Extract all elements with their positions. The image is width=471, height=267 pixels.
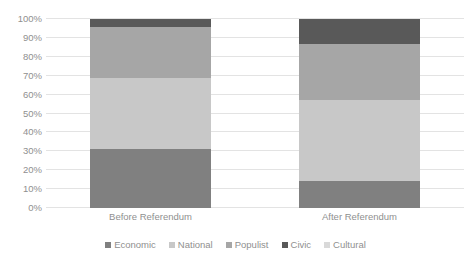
y-tick-label: 40%	[23, 128, 42, 138]
bar-stack[interactable]	[299, 19, 420, 208]
chart-container: 0%10%20%30%40%50%60%70%80%90%100% Before…	[0, 0, 471, 267]
x-tick-label: Before Referendum	[109, 212, 192, 222]
y-tick-label: 100%	[18, 14, 42, 24]
legend-label: National	[178, 240, 213, 250]
x-tick-label: After Referendum	[322, 212, 397, 222]
bar-segment-national[interactable]	[90, 78, 211, 150]
legend-swatch-icon	[226, 242, 232, 248]
y-tick-label: 10%	[23, 184, 42, 194]
legend-item-populist[interactable]: Populist	[226, 240, 269, 250]
legend-swatch-icon	[282, 242, 288, 248]
legend-label: Cultural	[333, 240, 366, 250]
bar-segment-economic[interactable]	[299, 181, 420, 208]
bar-segment-populist[interactable]	[90, 27, 211, 78]
y-tick-label: 70%	[23, 71, 42, 81]
legend-swatch-icon	[324, 242, 330, 248]
chart-title	[0, 0, 471, 1]
bar-stack[interactable]	[90, 19, 211, 208]
chart-legend: EconomicNationalPopulistCivicCultural	[0, 240, 471, 250]
y-tick-label: 0%	[28, 203, 42, 213]
plot-area	[46, 19, 464, 208]
y-tick-label: 20%	[23, 165, 42, 175]
y-tick-label: 30%	[23, 147, 42, 157]
y-axis: 0%10%20%30%40%50%60%70%80%90%100%	[0, 19, 42, 208]
legend-item-cultural[interactable]: Cultural	[324, 240, 366, 250]
legend-swatch-icon	[169, 242, 175, 248]
legend-item-economic[interactable]: Economic	[105, 240, 156, 250]
legend-label: Economic	[114, 240, 156, 250]
legend-item-civic[interactable]: Civic	[282, 240, 312, 250]
bar-segment-economic[interactable]	[90, 149, 211, 208]
x-axis: Before ReferendumAfter Referendum	[46, 212, 464, 228]
legend-swatch-icon	[105, 242, 111, 248]
legend-item-national[interactable]: National	[169, 240, 213, 250]
y-tick-label: 80%	[23, 52, 42, 62]
bar-segment-civic[interactable]	[90, 19, 211, 27]
y-tick-label: 60%	[23, 90, 42, 100]
y-tick-label: 90%	[23, 33, 42, 43]
legend-label: Civic	[291, 240, 312, 250]
y-tick-label: 50%	[23, 109, 42, 119]
bar-segment-populist[interactable]	[299, 44, 420, 101]
bar-segment-national[interactable]	[299, 100, 420, 180]
bar-segment-civic[interactable]	[299, 19, 420, 44]
legend-label: Populist	[235, 240, 269, 250]
